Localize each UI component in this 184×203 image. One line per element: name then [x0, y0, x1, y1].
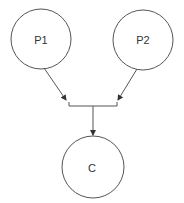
junction-bracket [69, 102, 117, 106]
edge-p2-to-junction [118, 69, 137, 100]
node-c-label: C [88, 162, 96, 174]
node-p2-label: P2 [136, 34, 149, 46]
node-p1: P1 [11, 9, 71, 69]
edge-p1-to-junction [44, 68, 66, 100]
diagram-canvas: P1 P2 C [0, 0, 184, 203]
node-p2: P2 [113, 10, 173, 70]
node-p1-label: P1 [34, 34, 47, 46]
node-c: C [62, 136, 124, 198]
